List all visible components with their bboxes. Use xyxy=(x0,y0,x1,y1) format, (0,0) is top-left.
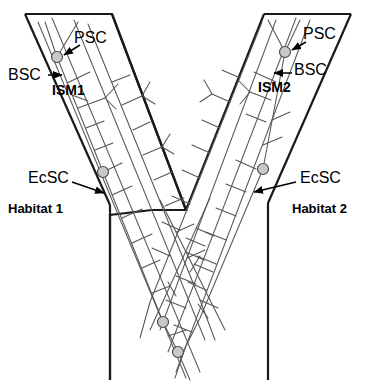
tract-wall-left-b xyxy=(52,18,200,372)
filament-right-sec-branch-2b xyxy=(204,80,212,94)
label-psc-left: PSC xyxy=(74,30,107,46)
label-ecsc-right: EcSC xyxy=(300,170,341,186)
filament-bottom-branch-f xyxy=(194,264,213,272)
label-bsc-left: BSC xyxy=(8,67,41,83)
label-psc-right: PSC xyxy=(303,26,336,42)
label-habitat-left: Habitat 1 xyxy=(8,202,63,215)
filament-left-sec-branch-6 xyxy=(165,198,184,206)
filament-right-branch-3 xyxy=(246,114,266,122)
label-habitat-right: Habitat 2 xyxy=(292,202,347,215)
filament-left-sec-branch-4b xyxy=(162,134,170,147)
filament-left-sec-branch-1 xyxy=(112,75,130,82)
diagram-illustration xyxy=(0,0,373,386)
filament-right-sec-branch-1 xyxy=(222,70,240,78)
arrow-ecsc-left xyxy=(72,182,104,193)
ecsc-node-left xyxy=(98,167,109,178)
psc-node-right xyxy=(280,47,291,58)
filament-right-branch-9 xyxy=(206,232,226,240)
label-ism-right: ISM2 xyxy=(258,80,291,94)
bottom-node-lower xyxy=(173,347,184,358)
label-ecsc-left: EcSC xyxy=(28,170,69,186)
filament-bottom-left-diag xyxy=(150,198,210,330)
filament-left-sec-branch-4 xyxy=(143,147,174,155)
diagram-canvas: PSC PSC BSC BSC ISM1 ISM2 EcSC EcSC Habi… xyxy=(0,0,373,386)
habitat-left-inner-edge xyxy=(112,14,186,210)
filament-left-branch-4 xyxy=(95,143,113,150)
filament-left-sec-branch-2b xyxy=(142,82,150,96)
filament-right-branch-7 xyxy=(226,184,246,192)
filament-left-branch-9 xyxy=(142,260,160,268)
filament-left-sec-branch-3 xyxy=(133,122,150,130)
filament-bottom-branch-b xyxy=(186,252,204,260)
tract-wall-right-c xyxy=(160,20,276,330)
label-bsc-right: BSC xyxy=(294,62,327,78)
arrow-psc-left xyxy=(64,45,80,55)
psc-node-left xyxy=(52,52,63,63)
filament-right-sec-branch-3 xyxy=(202,120,220,128)
filament-bottom-branch-a xyxy=(196,228,214,236)
filament-right-sec-branch-4 xyxy=(192,145,210,153)
filaments-bottom-crossing xyxy=(150,198,225,330)
habitat-right-inner-edge xyxy=(186,14,264,210)
arrow-ecsc-right xyxy=(254,182,296,192)
bottom-node-upper xyxy=(158,317,169,328)
filament-left-sec-branch-5 xyxy=(154,172,172,180)
filament-right-sec-branch-2 xyxy=(200,94,230,102)
stem-cell-nodes xyxy=(52,47,291,358)
ecsc-node-right xyxy=(258,164,269,175)
filament-left-branch-6 xyxy=(112,186,132,195)
filament-left-branch-8 xyxy=(132,234,152,243)
filament-left-main-axis xyxy=(45,22,190,380)
filament-right-branch-5 xyxy=(263,137,282,145)
filaments-left-arm xyxy=(45,22,190,380)
filament-left-branch-2b xyxy=(105,98,116,109)
filament-right-sec-branch-5 xyxy=(182,170,200,178)
tract-wall-left-c xyxy=(74,20,205,340)
filament-right-branch-8 xyxy=(216,208,236,216)
filament-left-sec-branch-2 xyxy=(122,96,155,105)
label-ism-left: ISM1 xyxy=(52,83,85,97)
